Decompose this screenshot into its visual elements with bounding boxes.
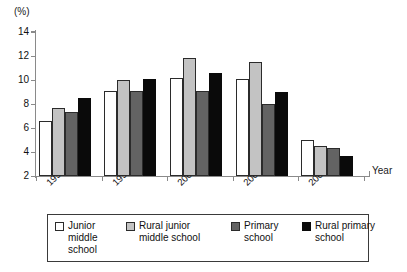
legend-item-label-line: Junior xyxy=(68,220,116,232)
legend-item-label-line: middle school xyxy=(139,232,221,244)
y-axis-tick-label: 6 xyxy=(4,123,29,133)
bar xyxy=(65,112,78,176)
legend-swatch-icon xyxy=(55,222,64,231)
x-axis-tick xyxy=(364,176,365,181)
legend-item-label-line: Rural junior xyxy=(139,220,221,232)
legend-swatch-icon xyxy=(126,222,135,231)
bar xyxy=(117,80,130,176)
legend-item-label-line: school xyxy=(315,232,381,244)
y-axis-tick-label-text: 4 xyxy=(7,147,29,157)
x-axis-tick xyxy=(167,176,168,181)
legend-item: Primaryschool xyxy=(231,220,292,256)
legend-item-label: Juniormiddleschool xyxy=(68,220,116,256)
y-axis-tick-label: 2 xyxy=(4,171,29,181)
legend-item-label: Rural primaryschool xyxy=(315,220,381,244)
bar xyxy=(314,146,327,176)
legend-item: Rural juniormiddle school xyxy=(126,220,221,256)
bar xyxy=(39,121,52,176)
bar xyxy=(327,148,340,176)
plot-area xyxy=(36,32,364,176)
legend-item-label-line: school xyxy=(244,232,292,244)
y-axis-tick-label-text: 14 xyxy=(7,27,29,37)
legend-item-label-line: middle xyxy=(68,232,116,244)
x-axis-tick xyxy=(102,176,103,181)
x-axis-tick xyxy=(36,176,37,181)
bar xyxy=(78,98,91,176)
y-axis-tick-label-text: 10 xyxy=(7,75,29,85)
y-axis-tick-label: 10 xyxy=(4,75,29,85)
legend-item-label: Rural juniormiddle school xyxy=(139,220,221,244)
bar xyxy=(340,156,353,176)
y-axis-tick-label-text: 2 xyxy=(7,171,29,181)
legend-swatch-icon xyxy=(231,222,240,231)
y-axis-tick-label-text: 12 xyxy=(7,51,29,61)
bar xyxy=(262,104,275,176)
y-axis-tick-label: 12 xyxy=(4,51,29,61)
bar xyxy=(104,91,117,176)
x-axis-right-cap xyxy=(369,171,370,177)
bar xyxy=(183,58,196,176)
y-axis-tick-label-text: 6 xyxy=(7,123,29,133)
x-axis-title: Year xyxy=(372,165,392,176)
bar xyxy=(196,91,209,176)
x-axis-tick xyxy=(233,176,234,181)
y-axis-unit-label: (%) xyxy=(14,6,30,17)
bar xyxy=(249,62,262,176)
legend-item: Juniormiddleschool xyxy=(55,220,116,256)
x-axis-tick xyxy=(298,176,299,181)
legend-item: Rural primaryschool xyxy=(302,220,381,256)
bar xyxy=(275,92,288,176)
y-axis-tick-label: 14 xyxy=(4,27,29,37)
bar xyxy=(170,78,183,176)
bar xyxy=(130,91,143,176)
legend-item-label-line: Primary xyxy=(244,220,292,232)
bar xyxy=(143,79,156,176)
y-axis-tick-label: 8 xyxy=(4,99,29,109)
legend-item-label-line: Rural primary xyxy=(315,220,381,232)
bar xyxy=(52,108,65,176)
legend-item-label: Primaryschool xyxy=(244,220,292,244)
legend-swatch-icon xyxy=(302,222,311,231)
bar-chart: (%) 2468101214 19941997200020032006 Year… xyxy=(0,0,407,272)
bar xyxy=(209,73,222,176)
y-axis-tick-label-text: 8 xyxy=(7,99,29,109)
chart-legend: JuniormiddleschoolRural juniormiddle sch… xyxy=(47,214,369,262)
legend-item-label-line: school xyxy=(68,244,116,256)
bar xyxy=(236,79,249,176)
bar xyxy=(301,140,314,176)
y-axis-tick-label: 4 xyxy=(4,147,29,157)
